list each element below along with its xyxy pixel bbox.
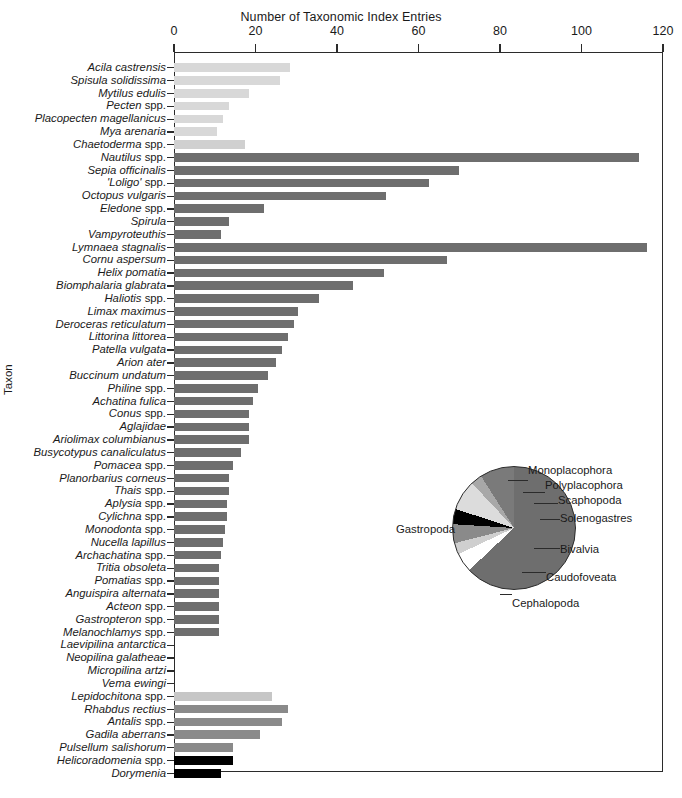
y-tick [167,580,174,581]
y-tick [167,388,174,389]
y-tick [167,144,174,145]
y-tick [167,529,174,530]
y-tick [167,696,174,697]
pie-label-monoplacophora: Monoplacophora [528,464,612,476]
y-tick [167,657,174,658]
y-tick [167,375,174,376]
y-axis-label: Sepia officinalis [0,165,166,176]
y-axis-label: Gadila aberrans [0,729,166,740]
y-tick [167,234,174,235]
y-tick [167,760,174,761]
y-axis-label: Nucella lapillus [0,537,166,548]
y-axis-label: Vema ewingi [0,678,166,689]
y-tick [167,285,174,286]
y-tick [167,183,174,184]
pie-leader-cephalopoda [500,594,512,595]
y-tick [167,157,174,158]
y-axis-label: Antalis spp. [0,716,166,727]
y-axis-label: Lepidochitona spp. [0,691,166,702]
y-axis-label: Spirula [0,216,166,227]
pie-label-scaphopoda: Scaphopoda [558,494,621,506]
y-axis-label: Octopus vulgaris [0,190,166,201]
y-axis-label: Rhabdus rectius [0,704,166,715]
y-tick [167,337,174,338]
y-tick [167,401,174,402]
y-axis-label: Busycotypus canaliculatus [0,447,166,458]
y-tick [167,773,174,774]
y-tick [167,170,174,171]
y-axis-label: Planorbarius corneus [0,473,166,484]
y-axis-label: Deroceras reticulatum [0,319,166,330]
pie-leader-caudofoveata [522,572,546,573]
pie-label-caudofoveata: Caudofoveata [546,571,616,583]
pie-label-polyplacophora: Polyplacophora [545,479,623,491]
y-axis-label: Micropilina artzi [0,665,166,676]
y-axis-label: Biomphalaria glabrata [0,280,166,291]
pie-leader-monoplacophora [508,480,528,481]
y-axis-label: Arion ater [0,357,166,368]
y-axis-label: Littorina littorea [0,331,166,342]
y-tick [167,503,174,504]
y-tick [167,542,174,543]
y-tick [167,645,174,646]
y-axis-label: Placopecten magellanicus [0,113,166,124]
pie-leader-solenogastres [540,519,560,520]
y-tick [167,465,174,466]
y-axis-label: Monodonta spp. [0,524,166,535]
y-tick [167,221,174,222]
y-axis-label: Thais spp. [0,485,166,496]
y-axis-label: Eledone spp. [0,203,166,214]
y-axis-label: Nautilus spp. [0,152,166,163]
y-tick [167,606,174,607]
y-tick [167,722,174,723]
y-tick [167,93,174,94]
y-tick [167,272,174,273]
y-tick [167,426,174,427]
y-axis-label: Spisula solidissima [0,75,166,86]
y-axis-label: Ariolimax columbianus [0,434,166,445]
y-axis-label: Acteon spp. [0,601,166,612]
y-axis-label: Anguispira alternata [0,588,166,599]
y-tick [167,298,174,299]
y-tick [167,683,174,684]
y-axis-label: Vampyroteuthis [0,229,166,240]
y-tick [167,106,174,107]
y-axis-label: Achatina fulica [0,396,166,407]
y-tick [167,491,174,492]
y-axis-label: Tritia obsoleta [0,562,166,573]
y-tick [167,670,174,671]
pie-label-cephalopoda: Cephalopoda [512,597,579,609]
y-axis-label: Laevipilina antarctica [0,639,166,650]
y-axis-label: Pomacea spp. [0,460,166,471]
y-tick [167,516,174,517]
y-axis-label: Chaetoderma spp. [0,139,166,150]
y-axis-label: Haliotis spp. [0,293,166,304]
y-axis-label: Aplysia spp. [0,498,166,509]
y-tick [167,247,174,248]
y-axis-label: Neopilina galatheae [0,652,166,663]
taxonomic-index-bar-chart: Number of Taxonomic Index Entries Taxon … [0,0,682,798]
y-tick [167,131,174,132]
y-axis-label: Helicoradomenia spp. [0,755,166,766]
y-tick [167,80,174,81]
y-tick [167,119,174,120]
y-axis-label: Philine spp. [0,383,166,394]
y-tick [167,349,174,350]
y-tick [167,478,174,479]
y-tick [167,747,174,748]
y-axis-label: Limax maximus [0,306,166,317]
pie-label-gastropoda: Gastropoda [396,523,455,535]
y-tick [167,311,174,312]
y-axis-label: Patella vulgata [0,344,166,355]
y-tick [167,632,174,633]
y-axis-label: Buccinum undatum [0,370,166,381]
y-axis-label: Melanochlamys spp. [0,627,166,638]
y-axis-label: Mya arenaria [0,126,166,137]
y-tick [167,260,174,261]
y-tick [167,619,174,620]
y-axis-label: Lymnaea stagnalis [0,242,166,253]
y-axis-label: Pecten spp. [0,100,166,111]
y-axis-label: Mytilus edulis [0,88,166,99]
pie-leader-polyplacophora [523,492,545,493]
y-tick [167,324,174,325]
